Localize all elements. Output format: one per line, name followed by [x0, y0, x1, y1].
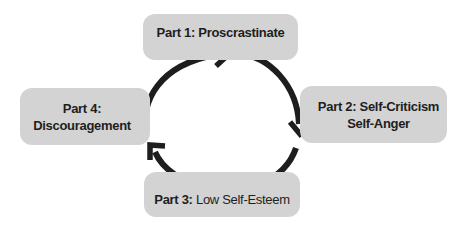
node-part2-self-criticism: Part 2: Self-Criticism Self-Anger [300, 86, 447, 143]
node-part1-label: Part 1: Proscrastinate [157, 24, 285, 41]
arrow-part1-to-part2 [238, 53, 299, 124]
node-part4-discouragement: Part 4: Discouragement [20, 88, 150, 145]
node-part3-low-self-esteem: Part 3: Low Self-Esteem [144, 172, 300, 217]
node-part3-label: Part 3: Low Self-Esteem [154, 191, 289, 208]
node-part4-text: Discouragement [33, 117, 131, 134]
node-part2-text: Self-Criticism [360, 99, 440, 114]
node-part1-number: Part 1: [157, 25, 195, 40]
node-part2-number: Part 2: [318, 99, 356, 114]
node-part2-label-line1: Part 2: Self-Criticism [318, 98, 439, 115]
node-part1-text: Proscrastinate [198, 25, 284, 40]
arrow-part4-to-part1 [145, 55, 215, 136]
node-part1-procrastinate: Part 1: Proscrastinate [143, 14, 298, 60]
node-part2-label-line2: Self-Anger [347, 115, 410, 132]
node-part3-number: Part 3: [154, 192, 192, 207]
node-part3-text: Low Self-Esteem [196, 192, 290, 207]
node-part4-number: Part 4: [63, 100, 101, 117]
